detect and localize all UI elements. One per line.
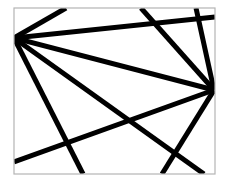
diagram-svg <box>0 0 228 184</box>
line-diagram <box>0 0 228 184</box>
lines-group <box>14 8 215 174</box>
diagram-line-4 <box>14 38 83 174</box>
diagram-line-3 <box>14 38 214 90</box>
